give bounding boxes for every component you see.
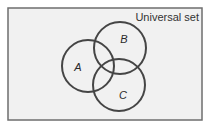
venn-svg: Universal set A B C [0,0,217,130]
universal-set-label: Universal set [135,11,199,23]
set-c-label: C [119,89,127,101]
set-b-label: B [120,33,127,45]
venn-diagram: Universal set A B C [0,0,217,130]
set-a-label: A [73,61,81,73]
